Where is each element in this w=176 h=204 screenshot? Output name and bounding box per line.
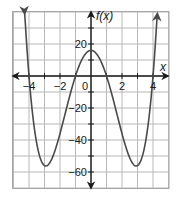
x-axis-label: x	[159, 60, 167, 74]
x-tick-label: −4	[23, 80, 36, 92]
y-tick-label: 20	[75, 38, 87, 50]
y-axis-label: f(x)	[96, 9, 113, 23]
x-tick-label: 2	[119, 80, 125, 92]
y-tick-labels: 20−20−40−60	[68, 38, 87, 178]
y-tick-label: −40	[68, 134, 87, 146]
origin-label: 0	[82, 80, 88, 92]
function-graph: −4−224 20−20−40−60 0 f(x) x	[0, 0, 176, 204]
x-tick-label: 4	[150, 80, 156, 92]
y-tick-label: −20	[68, 102, 87, 114]
x-tick-label: −2	[54, 80, 67, 92]
x-tick-labels: −4−224	[23, 80, 156, 92]
y-tick-label: −60	[68, 166, 87, 178]
